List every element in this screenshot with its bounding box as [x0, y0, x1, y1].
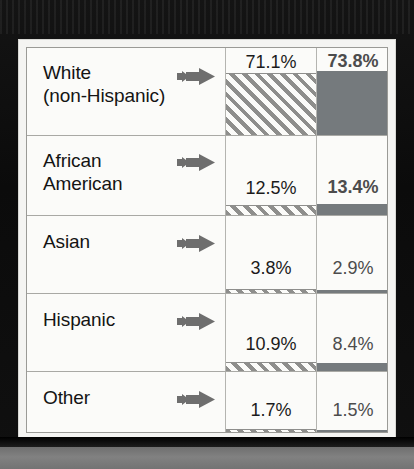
- column-2-cell: 13.4%: [316, 136, 388, 215]
- value-label: 73.8%: [317, 51, 388, 72]
- comparison-table: White (non-Hispanic) 71.1% 73.8% Afri: [26, 47, 388, 433]
- value-label: 2.9%: [317, 258, 388, 279]
- value-label: 8.4%: [317, 334, 388, 355]
- column-1-cell: 3.8%: [225, 216, 316, 293]
- table-row: Other 1.7% 1.5%: [27, 372, 387, 432]
- chart-card: White (non-Hispanic) 71.1% 73.8% Afri: [19, 40, 395, 440]
- value-label: 12.5%: [226, 178, 316, 199]
- column-1-cell: 71.1%: [225, 48, 316, 135]
- value-label: 1.7%: [226, 400, 316, 421]
- bar-solid: [317, 204, 388, 215]
- bar-hatched: [226, 289, 316, 293]
- row-label-cell: Other: [27, 372, 225, 432]
- row-label: African American: [43, 149, 122, 195]
- arrow-right-icon: [177, 313, 215, 330]
- bar-hatched: [226, 429, 316, 432]
- arrow-right-icon: [177, 154, 215, 171]
- row-label: White (non-Hispanic): [43, 61, 165, 107]
- row-label-cell: White (non-Hispanic): [27, 48, 225, 135]
- column-2-cell: 1.5%: [316, 372, 388, 432]
- column-1-cell: 12.5%: [225, 136, 316, 215]
- table-row: African American 12.5% 13.4%: [27, 136, 387, 216]
- bar-solid: [317, 290, 388, 293]
- frame-shadow: [0, 437, 414, 447]
- value-label: 1.5%: [317, 400, 388, 421]
- arrow-right-icon: [177, 68, 215, 85]
- table-row: Asian 3.8% 2.9%: [27, 216, 387, 294]
- frame-bottom-strip: [0, 447, 414, 469]
- arrow-right-icon: [177, 235, 215, 252]
- row-label-cell: African American: [27, 136, 225, 215]
- row-label: Hispanic: [43, 308, 115, 331]
- row-label-cell: Asian: [27, 216, 225, 293]
- bar-solid: [317, 71, 388, 135]
- table-row: White (non-Hispanic) 71.1% 73.8%: [27, 48, 387, 136]
- value-label: 3.8%: [226, 258, 316, 279]
- column-2-cell: 2.9%: [316, 216, 388, 293]
- column-2-cell: 73.8%: [316, 48, 388, 135]
- row-label: Asian: [43, 230, 90, 253]
- photo-frame: White (non-Hispanic) 71.1% 73.8% Afri: [0, 0, 414, 469]
- column-2-cell: 8.4%: [316, 294, 388, 371]
- value-label: 71.1%: [226, 52, 316, 73]
- column-1-cell: 10.9%: [225, 294, 316, 371]
- bar-solid: [317, 430, 388, 432]
- bar-hatched: [226, 362, 316, 371]
- bar-hatched: [226, 205, 316, 215]
- row-label-cell: Hispanic: [27, 294, 225, 371]
- bar-hatched: [226, 73, 316, 135]
- row-label: Other: [43, 386, 90, 409]
- table-row: Hispanic 10.9% 8.4%: [27, 294, 387, 372]
- value-label: 13.4%: [317, 177, 388, 198]
- column-1-cell: 1.7%: [225, 372, 316, 432]
- value-label: 10.9%: [226, 334, 316, 355]
- arrow-right-icon: [177, 391, 215, 408]
- bar-solid: [317, 363, 388, 371]
